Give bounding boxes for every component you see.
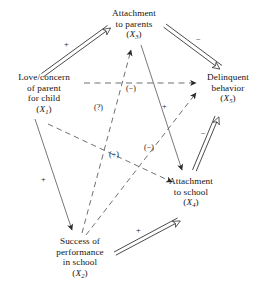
node-x1-line-2: of parent bbox=[0, 83, 88, 94]
edge-x4-to-x5 bbox=[193, 116, 219, 171]
label-x1-x4-plus: (+) bbox=[109, 151, 119, 159]
node-x2-line-2: performance bbox=[32, 247, 128, 258]
node-x2-line-1: Success of bbox=[32, 236, 128, 247]
label-x2-x3-question: (?) bbox=[94, 104, 103, 112]
node-x4-line-2: to school bbox=[146, 187, 236, 198]
node-attachment-to-school[interactable]: Attachment to school (X4) bbox=[146, 176, 236, 211]
node-attachment-to-parents[interactable]: Attachment to parents (X3) bbox=[0, 8, 268, 43]
label-x2-x5-minus: (−) bbox=[144, 144, 154, 152]
node-x3-line-1: Attachment bbox=[0, 8, 268, 19]
label-x1-x5-minus: (−) bbox=[126, 85, 136, 93]
node-success-of-performance-in-school[interactable]: Success of performance in school (X2) bbox=[32, 236, 128, 281]
label-x3-x4-plus: + bbox=[162, 103, 167, 111]
node-x2-symbol: (X2) bbox=[32, 268, 128, 281]
node-love-concern-of-parent[interactable]: Love/concern of parent for child (X1) bbox=[0, 72, 88, 117]
label-x1-x2-plus: + bbox=[41, 176, 46, 184]
node-x3-symbol: (X3) bbox=[0, 29, 268, 42]
edge-x2-to-x3 bbox=[82, 50, 131, 233]
label-x1-x3-plus: + bbox=[64, 41, 69, 49]
node-x1-line-1: Love/concern bbox=[0, 72, 88, 83]
node-x5-line-1: Delinquent bbox=[188, 72, 268, 83]
node-x2-line-3: in school bbox=[32, 257, 128, 268]
node-x4-symbol: (X4) bbox=[146, 197, 236, 210]
node-delinquent-behavior[interactable]: Delinquent behavior (X5) bbox=[188, 72, 268, 107]
edge-x2-to-x5 bbox=[86, 93, 196, 235]
node-x1-line-3: for child bbox=[0, 93, 88, 104]
node-x5-line-2: behavior bbox=[188, 83, 268, 94]
label-x4-x5-minus: − bbox=[201, 130, 206, 138]
node-x1-symbol: (X1) bbox=[0, 104, 88, 117]
label-x3-x5-minus: − bbox=[196, 36, 201, 44]
label-x2-x4-plus: + bbox=[136, 227, 141, 235]
node-x5-symbol: (X5) bbox=[188, 93, 268, 106]
node-x4-line-1: Attachment bbox=[146, 176, 236, 187]
node-x3-line-2: to parents bbox=[0, 19, 268, 30]
